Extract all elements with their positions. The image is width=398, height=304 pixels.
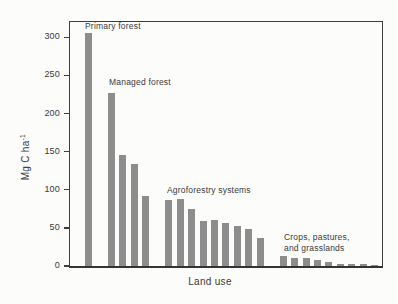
bar-0-0 (85, 33, 92, 266)
group-label-2: Agroforestry systems (167, 185, 251, 196)
y-tick-mark-0 (64, 265, 69, 266)
y-tick-mark-100 (64, 189, 69, 190)
y-tick-label-200: 200 (26, 108, 60, 119)
bar-3-8 (371, 265, 378, 266)
y-tick-label-300: 300 (26, 31, 60, 42)
x-axis-label: Land use (188, 276, 232, 287)
y-tick-mark-250 (64, 75, 69, 76)
bar-2-0 (165, 200, 172, 266)
group-label-3: Crops, pastures, and grasslands (284, 232, 350, 254)
bar-1-0 (108, 93, 115, 266)
bar-1-3 (142, 196, 149, 266)
figure: Mg C ha-1 Primary forestManaged forestAg… (0, 0, 398, 304)
bar-2-6 (234, 226, 241, 266)
y-tick-label-100: 100 (26, 184, 60, 195)
group-label-0: Primary forest (85, 21, 141, 32)
bar-2-5 (222, 223, 229, 266)
y-tick-mark-300 (64, 37, 69, 38)
bar-1-1 (119, 155, 126, 266)
group-label-1: Managed forest (109, 77, 171, 88)
y-tick-mark-200 (64, 113, 69, 114)
bar-2-7 (245, 229, 252, 266)
bar-1-2 (131, 164, 138, 266)
bar-2-1 (177, 199, 184, 266)
y-tick-mark-50 (64, 227, 69, 228)
y-tick-label-0: 0 (26, 260, 60, 271)
y-tick-label-150: 150 (26, 146, 60, 157)
bar-3-0 (280, 256, 287, 266)
plot-area: Primary forestManaged forestAgroforestry… (69, 21, 383, 268)
bar-2-3 (200, 221, 207, 266)
y-axis-label-exponent: -1 (19, 134, 26, 140)
bar-3-6 (348, 264, 355, 266)
bar-2-2 (188, 209, 195, 266)
y-tick-label-50: 50 (26, 222, 60, 233)
bar-3-4 (325, 262, 332, 266)
bar-3-1 (291, 258, 298, 266)
bar-3-3 (314, 260, 321, 266)
bar-2-4 (211, 220, 218, 266)
y-tick-label-250: 250 (26, 69, 60, 80)
y-tick-mark-150 (64, 151, 69, 152)
bar-3-7 (360, 264, 367, 266)
bar-3-5 (337, 264, 344, 266)
bar-2-8 (257, 238, 264, 266)
bar-3-2 (303, 258, 310, 266)
